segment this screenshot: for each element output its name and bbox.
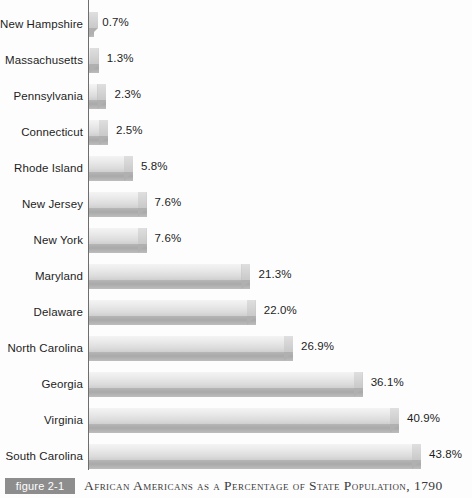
value-label: 40.9% <box>407 407 440 429</box>
bar-base-face <box>89 424 399 433</box>
bar-row: North Carolina26.9% <box>0 330 472 366</box>
bar-base-face <box>89 316 256 325</box>
bar-base-face <box>89 388 363 397</box>
value-label: 36.1% <box>371 371 404 393</box>
bar-end-cap-top <box>138 192 147 208</box>
bar-body <box>89 372 363 397</box>
category-label: Rhode Island <box>0 150 83 186</box>
value-label: 43.8% <box>429 443 462 465</box>
value-label: 2.3% <box>114 83 141 105</box>
bar-row: New Hampshire0.7% <box>0 6 472 42</box>
bar-row: Rhode Island5.8% <box>0 150 472 186</box>
value-label: 21.3% <box>258 263 291 285</box>
bar-end-cap-top <box>247 300 256 316</box>
bar-body <box>89 408 399 433</box>
bar-end-cap-top <box>138 228 147 244</box>
bar-row: Connecticut2.5% <box>0 114 472 150</box>
bar <box>89 120 108 145</box>
value-label: 2.5% <box>116 119 143 141</box>
bar-top-face <box>89 408 399 424</box>
bar <box>89 336 293 361</box>
bar-end-cap-top <box>124 156 133 172</box>
bar <box>89 84 106 109</box>
category-label: Maryland <box>0 258 83 294</box>
bar-end-cap-top <box>390 408 399 424</box>
bar <box>89 12 94 37</box>
bar-end-cap-top <box>90 48 99 64</box>
bar-end-cap-top <box>412 444 421 460</box>
bar <box>89 192 147 217</box>
bar-end-cap-top <box>354 372 363 388</box>
figure-number-badge: figure 2-1 <box>5 478 75 494</box>
bar <box>89 300 256 325</box>
category-label: New York <box>0 222 83 258</box>
bar-top-face <box>89 300 256 316</box>
bar <box>89 444 421 469</box>
bar-row: Delaware22.0% <box>0 294 472 330</box>
bar <box>89 156 133 181</box>
bar-row: Pennsylvania2.3% <box>0 78 472 114</box>
bar-end-cap-top <box>89 12 98 28</box>
figure-title: African Americans as a Percentage of Sta… <box>84 477 443 495</box>
bar <box>89 48 99 73</box>
bar-body <box>89 264 250 289</box>
bar-row: South Carolina43.8% <box>0 438 472 474</box>
bar-end-cap-top <box>241 264 250 280</box>
category-label: Massachusetts <box>0 42 83 78</box>
category-label: Connecticut <box>0 114 83 150</box>
category-label: South Carolina <box>0 438 83 474</box>
category-label: New Jersey <box>0 186 83 222</box>
value-label: 0.7% <box>102 11 129 33</box>
category-label: New Hampshire <box>0 6 83 42</box>
bar-top-face <box>89 372 363 388</box>
bar-base-face <box>89 280 250 289</box>
bar-chart: New Hampshire0.7%Massachusetts1.3%Pennsy… <box>0 0 472 470</box>
bar-body <box>89 336 293 361</box>
bar <box>89 264 250 289</box>
category-label: Georgia <box>0 366 83 402</box>
bar-end-cap-top <box>99 120 108 136</box>
bar-body <box>89 300 256 325</box>
bar <box>89 408 399 433</box>
value-label: 7.6% <box>155 191 182 213</box>
bar-end-cap-top <box>97 84 106 100</box>
bar-top-face <box>89 264 250 280</box>
bar <box>89 228 147 253</box>
category-label: Pennsylvania <box>0 78 83 114</box>
bar-row: Virginia40.9% <box>0 402 472 438</box>
bar-base-face <box>89 460 421 469</box>
bar-top-face <box>89 336 293 352</box>
bar-row: Maryland21.3% <box>0 258 472 294</box>
figure-caption: figure 2-1 African Americans as a Percen… <box>0 474 472 498</box>
bar-row: New Jersey7.6% <box>0 186 472 222</box>
bar-top-face <box>89 444 421 460</box>
bar-row: New York7.6% <box>0 222 472 258</box>
value-label: 26.9% <box>301 335 334 357</box>
value-label: 7.6% <box>155 227 182 249</box>
bar-body <box>89 444 421 469</box>
category-label: North Carolina <box>0 330 83 366</box>
bar <box>89 372 363 397</box>
bar-row: Massachusetts1.3% <box>0 42 472 78</box>
bar-base-face <box>89 352 293 361</box>
bar-end-cap-top <box>284 336 293 352</box>
figure-panel: New Hampshire0.7%Massachusetts1.3%Pennsy… <box>0 0 472 498</box>
value-label: 1.3% <box>107 47 134 69</box>
value-label: 22.0% <box>264 299 297 321</box>
category-label: Virginia <box>0 402 83 438</box>
bar-row: Georgia36.1% <box>0 366 472 402</box>
value-label: 5.8% <box>141 155 168 177</box>
category-label: Delaware <box>0 294 83 330</box>
